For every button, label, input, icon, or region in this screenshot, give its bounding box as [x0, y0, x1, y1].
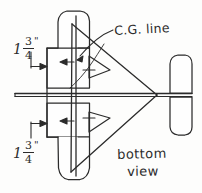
wing-planform — [47, 11, 90, 180]
dimension-unit-lower: " — [34, 139, 39, 150]
dimension-label-upper: 1 3 4 " — [13, 36, 39, 61]
dimension-label-lower: 1 3 4 " — [13, 140, 39, 165]
dimension-fraction-upper: 3 4 — [23, 36, 34, 61]
figure-canvas: 1 3 4 " 1 3 4 " C.G. line bottom view — [0, 0, 202, 193]
dimension-fraction-lower: 3 4 — [23, 140, 34, 165]
dimension-whole-upper: 1 — [13, 41, 22, 57]
dimension-denominator-upper: 4 — [24, 50, 33, 61]
dimension-numerator-lower: 3 — [24, 140, 33, 151]
view-label-view: view — [127, 164, 159, 178]
dimension-numerator-upper: 3 — [24, 36, 33, 47]
cg-line-label: C.G. line — [114, 22, 170, 37]
tail-surface — [170, 55, 192, 135]
view-label-bottom: bottom — [117, 147, 167, 161]
dimension-unit-upper: " — [34, 35, 39, 46]
fuselage-rod — [15, 94, 192, 97]
dimension-arrow-lower-outer — [31, 121, 47, 139]
dimension-denominator-lower: 4 — [24, 154, 33, 165]
dimension-whole-lower: 1 — [13, 145, 22, 161]
